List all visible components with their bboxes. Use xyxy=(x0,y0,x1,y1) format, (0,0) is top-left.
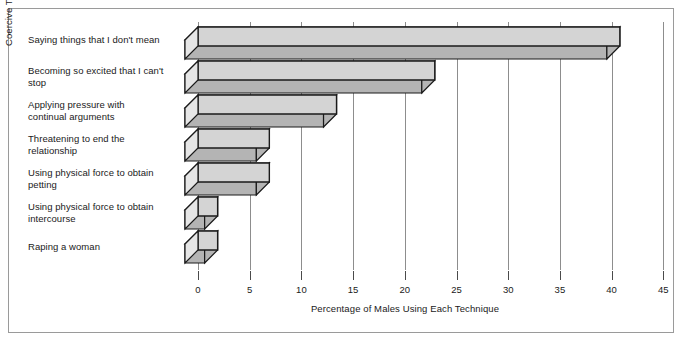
category-label-2-line1: Applying pressure with xyxy=(28,99,125,110)
category-label-5: Using physical force to obtain intercour… xyxy=(28,201,190,225)
category-label-3-line2: relationship xyxy=(28,145,77,156)
category-label-list: Saying things that I don't mean Becoming… xyxy=(28,20,190,270)
bar-4[interactable] xyxy=(183,161,273,199)
category-label-6-line1: Raping a woman xyxy=(28,241,100,252)
bar-3[interactable] xyxy=(183,127,273,165)
category-label-2-line2: continual arguments xyxy=(28,111,115,122)
category-label-5-line2: intercourse xyxy=(28,213,76,224)
x-tick-40 xyxy=(612,271,613,280)
category-label-1: Becoming so excited that I can't stop xyxy=(28,65,190,89)
x-tick-label-40: 40 xyxy=(592,284,632,295)
bar-1[interactable] xyxy=(183,59,439,97)
y-axis-title: Coercive Techniques Used by Males to Obt… xyxy=(2,0,16,46)
category-label-4-line1: Using physical force to obtain xyxy=(28,167,154,178)
bar-5[interactable] xyxy=(183,195,222,233)
x-tick-label-20: 20 xyxy=(385,284,425,295)
x-tick-15 xyxy=(353,271,354,280)
category-label-1-line2: stop xyxy=(28,77,46,88)
category-label-4: Using physical force to obtain petting xyxy=(28,167,190,191)
plot-area: 051015202530354045 xyxy=(198,22,612,270)
category-label-1-line1: Becoming so excited that I can't xyxy=(28,65,163,76)
x-tick-label-15: 15 xyxy=(333,284,373,295)
bar-0[interactable] xyxy=(183,25,624,63)
x-axis-title: Percentage of Males Using Each Technique xyxy=(198,303,612,314)
category-label-4-line2: petting xyxy=(28,179,57,190)
category-label-0: Saying things that I don't mean xyxy=(28,34,190,46)
category-label-5-line1: Using physical force to obtain xyxy=(28,201,154,212)
bar-2[interactable] xyxy=(183,93,341,131)
chart-figure: Coercive Techniques Used by Males to Obt… xyxy=(0,0,684,343)
category-label-6: Raping a woman xyxy=(28,241,190,253)
category-label-3-line1: Threatening to end the xyxy=(28,133,125,144)
x-tick-label-30: 30 xyxy=(488,284,528,295)
x-tick-0 xyxy=(198,271,199,280)
x-tick-label-25: 25 xyxy=(437,284,477,295)
category-label-0-line1: Saying things that I don't mean xyxy=(28,34,160,45)
x-tick-label-0: 0 xyxy=(178,284,218,295)
x-tick-20 xyxy=(405,271,406,280)
x-tick-25 xyxy=(457,271,458,280)
x-tick-5 xyxy=(250,271,251,280)
x-tick-label-10: 10 xyxy=(281,284,321,295)
x-tick-35 xyxy=(560,271,561,280)
gridline-45 xyxy=(663,22,664,270)
x-tick-label-35: 35 xyxy=(540,284,580,295)
category-label-2: Applying pressure with continual argumen… xyxy=(28,99,190,123)
x-tick-45 xyxy=(663,271,664,280)
x-tick-label-5: 5 xyxy=(230,284,270,295)
bar-6[interactable] xyxy=(183,229,222,267)
x-tick-10 xyxy=(301,271,302,280)
x-tick-label-45: 45 xyxy=(643,284,683,295)
category-label-3: Threatening to end the relationship xyxy=(28,133,190,157)
x-tick-30 xyxy=(508,271,509,280)
